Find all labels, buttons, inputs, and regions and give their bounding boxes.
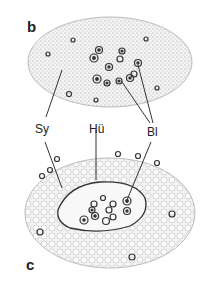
panel-label-b: b: [27, 18, 36, 35]
label-sy: Sy: [35, 122, 49, 136]
label-hu: Hü: [89, 122, 104, 136]
label-bl: Bl: [147, 125, 158, 139]
panel-c-embryo: [25, 152, 195, 269]
diagram-drawing: [0, 0, 208, 284]
panel-label-c: c: [26, 256, 34, 273]
diagram-figure: b c Sy Hü Bl: [0, 0, 208, 284]
panel-b-syncytium: [28, 17, 192, 107]
